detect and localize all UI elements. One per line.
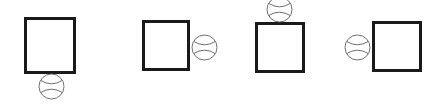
square-shape-4	[372, 21, 422, 72]
ball-shape-1	[37, 72, 66, 101]
square-shape-3	[255, 22, 305, 73]
ball-icon	[190, 33, 219, 62]
scene-canvas	[0, 0, 439, 105]
square-shape-1	[24, 17, 76, 74]
ball-icon	[265, 0, 294, 24]
ball-shape-3	[265, 0, 294, 24]
ball-icon	[343, 33, 372, 62]
square-shape-2	[142, 20, 190, 71]
ball-icon	[37, 72, 66, 101]
ball-shape-2	[190, 33, 219, 62]
ball-shape-4	[343, 33, 372, 62]
